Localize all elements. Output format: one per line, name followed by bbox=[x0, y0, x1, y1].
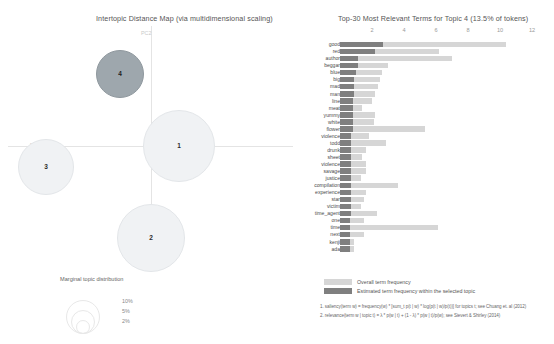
bar-row[interactable]: kenji bbox=[300, 238, 554, 245]
relevant-terms-panel: Top-30 Most Relevant Terms for Topic 4 (… bbox=[300, 0, 554, 344]
topic-circle-4[interactable]: 4 bbox=[96, 50, 144, 98]
bar-row[interactable]: time bbox=[300, 224, 554, 231]
bar-topic-frequency bbox=[340, 42, 383, 48]
bar-term-label[interactable]: justice bbox=[326, 175, 340, 182]
bar-term-label[interactable]: red bbox=[333, 48, 340, 55]
bar-term-label[interactable]: kenji bbox=[330, 239, 340, 246]
bar-term-label[interactable]: one bbox=[332, 217, 341, 224]
bar-row[interactable]: star bbox=[300, 196, 554, 203]
bar-term-label[interactable]: line bbox=[332, 98, 340, 105]
bar-row[interactable]: sheet bbox=[300, 154, 554, 161]
legend-label: Estimated term frequency within the sele… bbox=[357, 287, 475, 295]
bar-row[interactable]: ada bbox=[300, 245, 554, 252]
x-axis-tick: 10 bbox=[497, 27, 503, 33]
marginal-legend-pct: 2% bbox=[122, 318, 130, 324]
bar-topic-frequency bbox=[340, 84, 354, 90]
bar-row[interactable]: yummy bbox=[300, 111, 554, 118]
x-axis-tick: 8 bbox=[466, 27, 469, 33]
bar-term-label[interactable]: victim bbox=[327, 203, 340, 210]
topic-circle-label: 1 bbox=[177, 143, 181, 150]
bar-row[interactable]: author bbox=[300, 55, 554, 62]
marginal-legend-pct: 5% bbox=[122, 308, 130, 314]
bar-term-label[interactable]: big bbox=[333, 76, 340, 83]
bar-term-label[interactable]: sheet bbox=[328, 154, 340, 161]
bar-term-label[interactable]: time_agent bbox=[315, 210, 340, 217]
bar-row[interactable]: violence bbox=[300, 161, 554, 168]
bar-row[interactable]: next bbox=[300, 231, 554, 238]
x-axis-tick: 6 bbox=[434, 27, 437, 33]
bar-row[interactable]: good bbox=[300, 41, 554, 48]
bar-row[interactable]: justice bbox=[300, 175, 554, 182]
bar-term-label[interactable]: time bbox=[330, 224, 340, 231]
bar-term-label[interactable]: experience bbox=[315, 189, 340, 196]
bar-term-label[interactable]: todd bbox=[330, 140, 340, 147]
bar-term-label[interactable]: star bbox=[332, 196, 341, 203]
bar-row[interactable]: victim bbox=[300, 203, 554, 210]
bar-row[interactable]: time_agent bbox=[300, 210, 554, 217]
bar-row[interactable]: compilation bbox=[300, 182, 554, 189]
topic-circle-2[interactable]: 2 bbox=[117, 204, 185, 272]
bar-term-label[interactable]: violence bbox=[321, 133, 340, 140]
topic-circle-label: 2 bbox=[149, 235, 153, 242]
bar-topic-frequency bbox=[340, 154, 351, 160]
bar-row[interactable]: blue bbox=[300, 69, 554, 76]
bar-topic-frequency bbox=[340, 225, 350, 231]
bar-row[interactable]: flower bbox=[300, 126, 554, 133]
bar-term-label[interactable]: savage bbox=[324, 168, 340, 175]
bar-term-label[interactable]: beggar bbox=[324, 62, 340, 69]
bar-row[interactable]: red bbox=[300, 48, 554, 55]
bar-term-label[interactable]: yummy bbox=[324, 112, 340, 119]
bar-row[interactable]: todd bbox=[300, 140, 554, 147]
bar-topic-frequency bbox=[340, 126, 353, 132]
bar-row[interactable]: one bbox=[300, 217, 554, 224]
bar-row[interactable]: savage bbox=[300, 168, 554, 175]
bar-row[interactable]: mad bbox=[300, 83, 554, 90]
bar-term-label[interactable]: blue bbox=[330, 69, 340, 76]
bar-topic-frequency bbox=[340, 190, 351, 196]
bar-row[interactable]: big bbox=[300, 76, 554, 83]
bar-term-label[interactable]: ada bbox=[332, 246, 341, 253]
bar-term-label[interactable]: violence bbox=[321, 161, 340, 168]
bar-topic-frequency bbox=[340, 133, 351, 139]
bar-term-label[interactable]: man bbox=[330, 91, 340, 98]
topic-circle-3[interactable]: 3 bbox=[18, 139, 74, 195]
bar-term-label[interactable]: compilation bbox=[314, 182, 340, 189]
bar-topic-frequency bbox=[340, 140, 351, 146]
bar-topic-frequency bbox=[340, 105, 353, 111]
bar-term-label[interactable]: mad bbox=[330, 83, 340, 90]
bar-topic-frequency bbox=[340, 204, 351, 210]
bar-chart-bars: goodredauthorbeggarbluebigmadmanlinemeat… bbox=[300, 41, 554, 252]
marginal-topic-distribution-legend: Marginal topic distribution 2%5%10% bbox=[60, 276, 180, 336]
bar-topic-frequency bbox=[340, 49, 375, 55]
bar-row[interactable]: drunk bbox=[300, 147, 554, 154]
bar-topic-frequency bbox=[340, 70, 356, 76]
bar-topic-frequency bbox=[340, 63, 358, 69]
bar-row[interactable]: man bbox=[300, 90, 554, 97]
bar-topic-frequency bbox=[340, 246, 350, 252]
bar-topic-frequency bbox=[340, 239, 350, 245]
bar-row[interactable]: meat bbox=[300, 104, 554, 111]
bar-topic-frequency bbox=[340, 218, 350, 224]
bar-term-label[interactable]: meat bbox=[329, 105, 340, 112]
footnote-line: 1. saliency(term w) = frequency(w) * [su… bbox=[320, 303, 554, 312]
topic-circle-1[interactable]: 1 bbox=[143, 110, 215, 182]
intertopic-scatter-plot[interactable]: PC2 PC1 1234 bbox=[8, 26, 293, 266]
bar-term-label[interactable]: author bbox=[326, 55, 340, 62]
bar-term-label[interactable]: drunk bbox=[327, 147, 340, 154]
bar-topic-frequency bbox=[340, 161, 351, 167]
bar-term-label[interactable]: flower bbox=[326, 126, 340, 133]
bar-term-label[interactable]: good bbox=[329, 41, 340, 48]
bar-term-label[interactable]: white bbox=[328, 119, 340, 126]
bar-chart-title: Top-30 Most Relevant Terms for Topic 4 (… bbox=[338, 14, 528, 23]
bar-topic-frequency bbox=[340, 211, 351, 217]
bar-row[interactable]: white bbox=[300, 119, 554, 126]
bar-term-label[interactable]: next bbox=[330, 231, 340, 238]
bar-row[interactable]: experience bbox=[300, 189, 554, 196]
bar-row[interactable]: line bbox=[300, 97, 554, 104]
topic-circle-label: 3 bbox=[44, 164, 48, 171]
bar-row[interactable]: violence bbox=[300, 133, 554, 140]
bar-topic-frequency bbox=[340, 175, 351, 181]
intertopic-distance-panel: Intertopic Distance Map (via multidimens… bbox=[0, 0, 300, 344]
legend-label: Overall term frequency bbox=[357, 278, 411, 286]
bar-row[interactable]: beggar bbox=[300, 62, 554, 69]
